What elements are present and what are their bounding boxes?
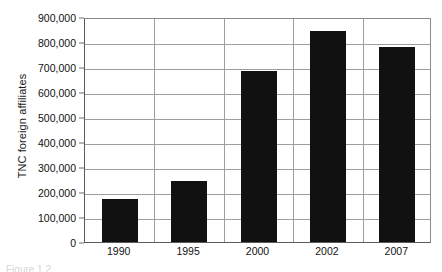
y-tick-label: 700,000 xyxy=(38,62,76,74)
y-tick-label: 0 xyxy=(70,237,76,249)
x-tick-label: 2000 xyxy=(246,245,269,257)
bar xyxy=(310,31,346,242)
x-tick-label: 2007 xyxy=(385,245,408,257)
figure-caption: Figure 1.2 xyxy=(6,264,51,272)
y-tick-label: 800,000 xyxy=(38,37,76,49)
bar xyxy=(171,181,207,242)
bar xyxy=(102,199,138,242)
y-tick-label: 200,000 xyxy=(38,187,76,199)
y-tick-label: 100,000 xyxy=(38,212,76,224)
y-tick-label: 400,000 xyxy=(38,137,76,149)
bar xyxy=(379,47,415,243)
y-axis-tick-labels: 0100,000200,000300,000400,000500,000600,… xyxy=(20,0,84,272)
x-axis-tick-labels: 19901995200020022007 xyxy=(84,245,431,261)
y-tick-label: 500,000 xyxy=(38,112,76,124)
bar xyxy=(241,71,277,242)
bar-chart-figure: TNC foreign affiliates 0100,000200,00030… xyxy=(0,0,442,272)
y-tick-label: 300,000 xyxy=(38,162,76,174)
x-tick-label: 1990 xyxy=(107,245,130,257)
x-tick-label: 2002 xyxy=(315,245,338,257)
bars-layer xyxy=(85,19,430,242)
x-tick-label: 1995 xyxy=(176,245,199,257)
plot-area xyxy=(84,18,431,243)
y-tick-label: 600,000 xyxy=(38,87,76,99)
y-tick-label: 900,000 xyxy=(38,12,76,24)
